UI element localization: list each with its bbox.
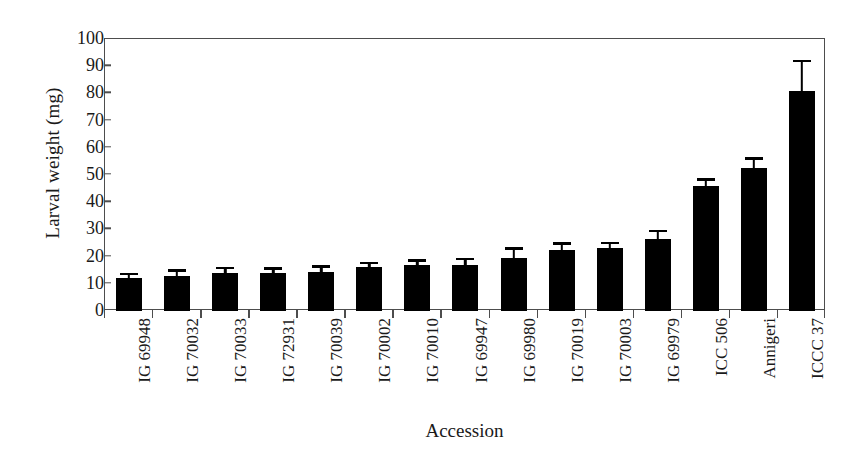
error-bar-cap: [120, 273, 138, 276]
x-axis-category-labels: IG 69948IG 70032IG 70033IG 72931IG 70039…: [104, 318, 825, 416]
bar: [212, 273, 238, 311]
error-bar-cap: [553, 242, 571, 245]
bars-layer: [105, 39, 826, 311]
x-axis-tick-mark: [248, 310, 249, 318]
bar: [308, 272, 334, 311]
bar: [164, 276, 190, 311]
error-bar-cap: [649, 230, 667, 233]
bar: [404, 265, 430, 311]
x-axis-category-label: IG 70039: [328, 318, 345, 418]
y-axis-tick-mark: [104, 228, 111, 229]
x-axis-category-label: IG 70010: [424, 318, 441, 418]
x-axis-tick-mark: [152, 310, 153, 318]
error-bar-cap: [360, 262, 378, 265]
x-axis-tick-mark: [537, 310, 538, 318]
x-axis-category-label: IG 72931: [280, 318, 297, 418]
error-bar-line: [512, 250, 514, 258]
error-bar-cap: [456, 258, 474, 261]
y-axis-tick-label: 20: [62, 247, 104, 265]
error-bar-cap: [264, 267, 282, 270]
bar-group: [490, 39, 538, 311]
x-axis-tick-mark: [777, 310, 778, 318]
bar-group: [297, 39, 345, 311]
error-bar-line: [753, 160, 755, 168]
x-axis-category-label: IG 69947: [473, 318, 490, 418]
y-axis-tick-mark: [104, 92, 111, 93]
y-axis-tick-mark: [104, 173, 111, 174]
y-axis-tick-label: 80: [62, 83, 104, 101]
x-axis-tick-mark: [296, 310, 297, 318]
x-axis-tick-mark: [489, 310, 490, 318]
error-bar-cap: [793, 60, 811, 63]
bar: [597, 248, 623, 311]
x-axis-category-label: ICC 506: [713, 318, 730, 418]
y-axis-tick-mark: [104, 200, 111, 201]
error-bar-cap: [312, 265, 330, 268]
x-axis-category-label: IG 70003: [617, 318, 634, 418]
error-bar-cap: [216, 267, 234, 270]
y-axis-tick-mark: [104, 146, 111, 147]
x-axis-category-label: IG 69948: [136, 318, 153, 418]
x-axis-category-label: ICCC 37: [809, 318, 826, 418]
x-axis-tick-mark: [729, 310, 730, 318]
bar-group: [201, 39, 249, 311]
bar: [356, 267, 382, 311]
chart-figure: Larval weight (mg) 010203040506070809010…: [0, 0, 853, 459]
y-axis-tick-label: 90: [62, 56, 104, 74]
y-axis-tick-label: 10: [62, 274, 104, 292]
y-axis-tick-label: 50: [62, 165, 104, 183]
plot-area: [104, 38, 825, 310]
y-axis-tick-label: 30: [62, 219, 104, 237]
x-axis-category-label: IG 70002: [376, 318, 393, 418]
x-axis-tick-mark: [681, 310, 682, 318]
bar-group: [682, 39, 730, 311]
x-axis-tick-mark: [824, 310, 825, 318]
y-axis-tick-labels: 0102030405060708090100: [50, 38, 104, 310]
bar-group: [634, 39, 682, 311]
x-axis-category-label: IG 70033: [232, 318, 249, 418]
bar: [452, 265, 478, 311]
x-axis-category-label: IG 69980: [521, 318, 538, 418]
bar-group: [345, 39, 393, 311]
y-axis-tick-mark: [104, 282, 111, 283]
error-bar-cap: [601, 242, 619, 245]
bar: [645, 239, 671, 311]
x-axis-tick-mark: [104, 310, 105, 318]
error-bar-cap: [697, 178, 715, 181]
x-axis-category-label: IG 69979: [665, 318, 682, 418]
y-axis-tick-label: 100: [62, 29, 104, 47]
error-bar-cap: [168, 269, 186, 272]
bar: [693, 186, 719, 311]
error-bar-line: [801, 62, 803, 91]
error-bar-cap: [408, 259, 426, 262]
bar-group: [105, 39, 153, 311]
x-axis-category-label: IG 70032: [184, 318, 201, 418]
x-axis-category-label: IG 70019: [569, 318, 586, 418]
bar-group: [153, 39, 201, 311]
bar-group: [778, 39, 826, 311]
y-axis-tick-label: 0: [62, 301, 104, 319]
x-axis-tick-mark: [200, 310, 201, 318]
bar-group: [393, 39, 441, 311]
y-axis-tick-label: 60: [62, 138, 104, 156]
x-axis-tick-mark: [344, 310, 345, 318]
bar-group: [441, 39, 489, 311]
y-axis-tick-label: 70: [62, 111, 104, 129]
bar: [501, 258, 527, 311]
y-axis-tick-mark: [104, 255, 111, 256]
x-axis-title: Accession: [104, 420, 825, 442]
x-axis-category-label: Annigeri: [761, 318, 778, 418]
x-axis-tick-mark: [392, 310, 393, 318]
bar: [260, 273, 286, 311]
bar-group: [249, 39, 297, 311]
x-axis-tick-mark: [440, 310, 441, 318]
bar: [116, 278, 142, 311]
bar: [789, 91, 815, 311]
error-bar-cap: [505, 247, 523, 250]
y-axis-tick-mark: [104, 64, 111, 65]
y-axis-tick-mark: [104, 119, 111, 120]
x-axis-tick-mark: [585, 310, 586, 318]
bar: [741, 168, 767, 311]
x-axis-tick-mark: [633, 310, 634, 318]
error-bar-cap: [745, 157, 763, 160]
